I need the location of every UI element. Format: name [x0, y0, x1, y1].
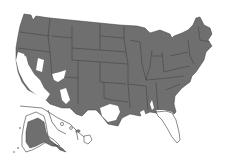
map-svg: [0, 0, 234, 165]
us-range-map: United States range map: [0, 0, 234, 165]
florida-outline: [156, 111, 180, 143]
